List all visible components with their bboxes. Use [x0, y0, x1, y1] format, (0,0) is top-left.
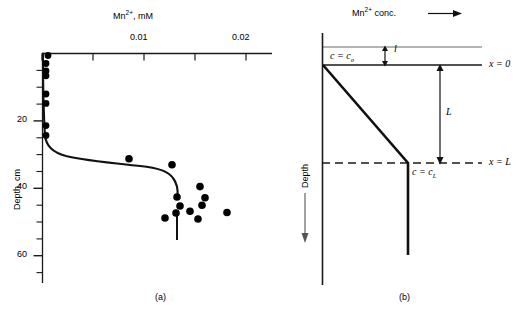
panel-b-header-main: Mn — [352, 8, 365, 18]
data-point — [194, 215, 202, 223]
data-point — [176, 202, 184, 210]
equals-symbol: = — [416, 166, 428, 177]
panel-b-L-dimension — [437, 64, 444, 165]
data-point — [186, 207, 194, 215]
data-point — [43, 60, 50, 67]
x-title-rest: , mM — [133, 11, 153, 21]
panel-b-c-equals-c0: c = co — [330, 50, 354, 63]
panel-b-l-label: l — [394, 43, 397, 54]
data-point — [43, 100, 50, 107]
equals-symbol: = — [493, 58, 505, 69]
L-value: L — [505, 156, 511, 167]
c0-subscript: o — [351, 56, 354, 63]
panel-b-depth-arrow — [302, 193, 309, 243]
cL-subscript: L — [433, 172, 437, 179]
panel-a-y-axis-title: Depth, cm — [12, 169, 22, 210]
panel-b-depth-label: Depth — [300, 164, 310, 188]
panel-b-L-label: L — [446, 106, 452, 117]
data-point — [173, 193, 181, 201]
y-tick-label-20: 20 — [17, 114, 27, 124]
panel-b-header: Mn2+ conc. — [352, 6, 396, 18]
data-point — [201, 194, 209, 202]
figure-svg — [0, 0, 521, 316]
y-tick-label-60: 60 — [17, 249, 27, 259]
data-point — [161, 214, 169, 222]
data-point — [43, 132, 50, 139]
panel-b-x-equals-0: x = 0 — [489, 58, 510, 69]
panel-b-header-superscript: 2+ — [365, 6, 372, 13]
panel-a-data-points — [43, 52, 231, 216]
panel-b-c-equals-cL: c = cL — [412, 166, 436, 179]
equals-symbol: = — [334, 50, 346, 61]
x-tick-label-002: 0.02 — [232, 32, 250, 42]
panel-b-l-dimension — [382, 46, 388, 67]
panel-a-tail-cluster — [161, 193, 202, 223]
panel-b-caption: (b) — [399, 292, 410, 302]
x-title-superscript: 2+ — [126, 9, 133, 16]
zero-value: 0 — [505, 58, 510, 69]
data-point — [168, 161, 176, 169]
panel-b-header-rest: conc. — [372, 8, 396, 18]
equals-symbol: = — [493, 156, 505, 167]
data-point — [43, 72, 50, 79]
data-point — [45, 52, 52, 59]
panel-b — [302, 10, 483, 285]
panel-b-x-equals-L: x = L — [489, 156, 511, 167]
panel-a — [34, 52, 273, 283]
panel-b-profile-line — [323, 65, 408, 255]
x-title-main: Mn — [113, 11, 126, 21]
data-point — [43, 91, 50, 98]
data-point — [172, 209, 180, 217]
figure-root: Mn2+, mM 0.01 0.02 20 40 60 Depth, cm (a… — [0, 0, 521, 316]
data-point — [223, 209, 231, 217]
data-point — [196, 183, 204, 191]
panel-a-model-curve — [43, 54, 178, 197]
data-point — [198, 201, 206, 209]
panel-a-caption: (a) — [155, 292, 166, 302]
data-point — [125, 155, 133, 163]
data-point — [43, 122, 50, 129]
panel-b-header-arrow — [428, 10, 462, 17]
x-tick-label-001: 0.01 — [130, 32, 148, 42]
panel-a-x-axis-title: Mn2+, mM — [113, 9, 153, 21]
